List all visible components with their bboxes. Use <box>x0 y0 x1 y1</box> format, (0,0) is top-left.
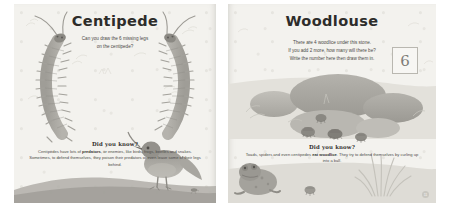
woodlouse-illustration <box>228 4 436 203</box>
dyk-text-before: Toads, spiders and even centipedes <box>246 152 312 157</box>
instruction-line-1: There are 4 woodlice under this stone. <box>293 40 371 45</box>
answer-box[interactable]: 6 <box>392 47 418 74</box>
instruction-line-1: Can you draw the 6 missing legs <box>82 36 148 41</box>
dyk-text-before: Centipedes have lots of <box>38 149 82 154</box>
page-title-woodlouse: Woodlouse <box>228 13 436 29</box>
answer-value: 6 <box>393 48 417 73</box>
centipede-illustration <box>14 4 216 203</box>
woodlouse <box>355 133 367 143</box>
did-you-know-heading: Did you know? <box>14 141 216 147</box>
centipede-left-body <box>35 12 75 142</box>
left-page-centipede: Centipede Can you draw the 6 missing leg… <box>14 4 216 203</box>
did-you-know-woodlouse: Did you know? Toads, spiders and even ce… <box>228 144 436 165</box>
instruction-line-2: on the centipede? <box>97 44 134 49</box>
did-you-know-body: Toads, spiders and even centipedes eat w… <box>228 152 436 166</box>
dyk-bold-word: predators <box>82 149 101 154</box>
did-you-know-centipede: Did you know? Centipedes have lots of pr… <box>14 141 216 169</box>
instruction-line-2: If you add 2 more, how many will there b… <box>288 48 376 53</box>
instruction-centipede: Can you draw the 6 missing legs on the c… <box>14 35 216 51</box>
page-number: 11 <box>422 191 429 198</box>
ground-mound <box>14 178 216 204</box>
page-title-centipede: Centipede <box>14 13 216 29</box>
dyk-bold-word: eat woodlice <box>312 152 337 157</box>
woodlouse <box>305 186 316 196</box>
instruction-line-3: Write the number here then draw them in. <box>290 56 375 61</box>
did-you-know-heading: Did you know? <box>228 144 436 150</box>
dyk-text-after: . They try to defend themselves by curli… <box>323 152 419 164</box>
woodlouse <box>316 114 327 124</box>
book-spread: Centipede Can you draw the 6 missing leg… <box>0 0 450 211</box>
right-page-woodlouse: Woodlouse There are 4 woodlice under thi… <box>228 4 436 203</box>
did-you-know-body: Centipedes have lots of predators, or en… <box>14 149 216 170</box>
